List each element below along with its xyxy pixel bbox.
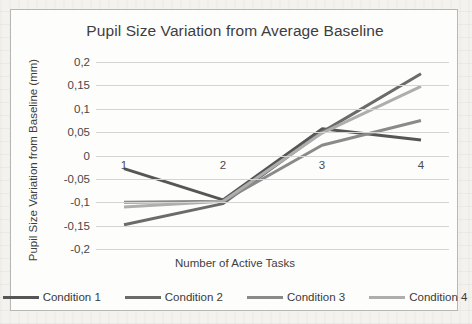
y-axis-title: Pupil Size Variation from Baseline (mm) — [25, 60, 41, 260]
y-axis-tick-label: 0,15 — [68, 79, 90, 91]
y-axis-tick-label: 0,2 — [74, 56, 90, 68]
y-axis-tick-label: -0,2 — [70, 243, 90, 255]
legend-label: Condition 2 — [165, 291, 223, 303]
gridline — [96, 109, 449, 110]
gridline — [96, 226, 449, 227]
legend-swatch-icon — [3, 296, 39, 299]
legend-swatch-icon — [125, 296, 161, 299]
y-axis-tick-label: 0,1 — [74, 103, 90, 115]
y-axis-tick-label: -0,15 — [64, 220, 90, 232]
y-axis-tick-label: 0,05 — [68, 126, 90, 138]
gridline — [96, 62, 449, 63]
plot-area: 0,20,150,10,050-0,05-0,1-0,15-0,2 1234 — [96, 62, 449, 249]
x-axis-tick-label: 4 — [418, 159, 424, 171]
gridline — [96, 85, 449, 86]
gridline — [96, 156, 449, 157]
legend-label: Condition 1 — [43, 291, 101, 303]
gridline — [96, 132, 449, 133]
series-line — [124, 86, 421, 207]
y-axis-tick-label: 0 — [84, 150, 90, 162]
chart-title: Pupil Size Variation from Average Baseli… — [11, 22, 459, 40]
legend-item[interactable]: Condition 3 — [247, 291, 345, 303]
x-axis-tick-label: 3 — [319, 159, 325, 171]
gridline — [96, 249, 449, 250]
legend-item[interactable]: Condition 4 — [369, 291, 467, 303]
gridline — [96, 202, 449, 203]
legend-item[interactable]: Condition 2 — [125, 291, 223, 303]
y-axis-tick-label: -0,1 — [70, 196, 90, 208]
legend-swatch-icon — [247, 296, 283, 299]
legend-label: Condition 4 — [409, 291, 467, 303]
series-line — [124, 129, 421, 200]
chart-legend: Condition 1Condition 2Condition 3Conditi… — [11, 291, 459, 303]
y-axis-title-label: Pupil Size Variation from Baseline (mm) — [27, 59, 39, 261]
x-axis-tick-label: 2 — [220, 159, 226, 171]
legend-label: Condition 3 — [287, 291, 345, 303]
chart-container: Pupil Size Variation from Average Baseli… — [10, 9, 458, 311]
x-axis-title: Number of Active Tasks — [11, 257, 459, 269]
legend-item[interactable]: Condition 1 — [3, 291, 101, 303]
screenshot-root: Pupil Size Variation from Average Baseli… — [0, 0, 472, 324]
y-axis-tick-label: -0,05 — [64, 173, 90, 185]
x-axis-tick-label: 1 — [121, 159, 127, 171]
legend-swatch-icon — [369, 296, 405, 299]
gridline — [96, 179, 449, 180]
